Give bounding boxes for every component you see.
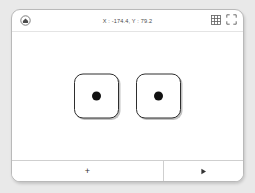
fullscreen-icon[interactable]	[226, 14, 237, 25]
node-dot-icon	[92, 92, 101, 101]
node-card-2[interactable]	[136, 74, 181, 119]
titlebar-actions	[210, 14, 237, 25]
play-button[interactable]	[164, 161, 243, 181]
node-dot-icon	[154, 92, 163, 101]
toolbar: +	[12, 160, 243, 181]
coordinate-readout: X : -174.4, Y : 79.2	[12, 18, 243, 24]
titlebar: X : -174.4, Y : 79.2	[12, 10, 243, 32]
canvas-area[interactable]	[12, 32, 243, 160]
node-row	[12, 74, 243, 119]
grid-icon[interactable]	[210, 14, 221, 25]
app-window: X : -174.4, Y : 79.2	[11, 9, 244, 182]
add-button[interactable]: +	[12, 161, 164, 181]
node-card-1[interactable]	[74, 74, 119, 119]
play-triangle-icon	[199, 167, 208, 176]
